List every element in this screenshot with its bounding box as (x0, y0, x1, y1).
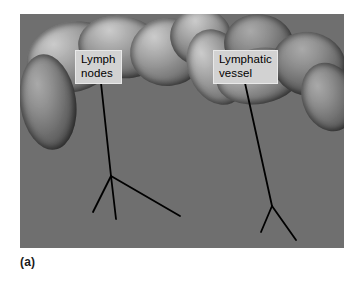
label-lymphatic-vessel: Lymphatic vessel (213, 50, 278, 84)
figure-container: Lymph nodes Lymphatic vessel (a) (0, 0, 362, 281)
dissection-photograph (20, 14, 344, 248)
label-lymph-nodes: Lymph nodes (75, 50, 122, 84)
figure-caption: (a) (20, 255, 35, 269)
